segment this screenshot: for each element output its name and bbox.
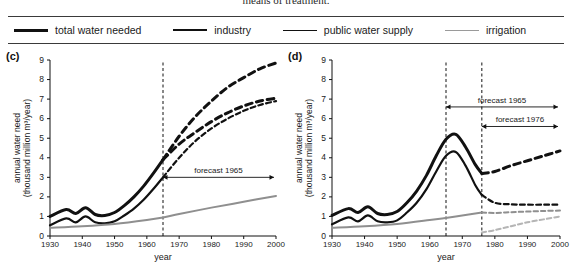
legend-label: irrigation <box>486 24 526 36</box>
plot-svg-c <box>4 48 284 270</box>
x-tick-label: 1970 <box>166 240 192 249</box>
y-axis-label-units: (thousand million m³/year) <box>22 60 32 236</box>
y-tick-label: 9 <box>316 55 326 65</box>
y-axis-label: annual water need(thousand million m³/ye… <box>12 60 32 236</box>
legend-line-swatch <box>173 29 207 31</box>
legend-line-swatch <box>445 30 479 31</box>
x-tick-label: 1950 <box>384 240 410 249</box>
x-tick-label: 1990 <box>514 240 540 249</box>
x-tick-label: 1940 <box>69 240 95 249</box>
annotation-arrow-head <box>554 105 559 110</box>
y-tick-label: 8 <box>34 74 44 84</box>
chart-legend: total water neededindustrypublic water s… <box>8 16 564 44</box>
annotation-arrow-head <box>554 124 559 129</box>
series-line-dashed <box>163 98 276 160</box>
annotation-arrow-head <box>446 105 451 110</box>
x-tick-label: 2000 <box>547 240 572 249</box>
series-line-dashed <box>482 151 560 173</box>
series-line-solid <box>332 134 482 215</box>
legend-industry: industry <box>173 24 283 36</box>
y-tick-label: 5 <box>34 133 44 143</box>
y-tick-label: 1 <box>34 211 44 221</box>
series-line-dashed <box>482 195 560 205</box>
y-axis-label-units: (thousand million m³/year) <box>304 60 314 236</box>
legend-public-water-supply: public water supply <box>283 24 445 36</box>
y-axis-label-main: annual water need <box>12 60 22 236</box>
x-axis-label: year <box>50 252 276 262</box>
chart-panel-c: (c) 012345678919301940195019601970198019… <box>4 48 284 270</box>
y-tick-label: 2 <box>34 191 44 201</box>
x-axis-label: year <box>332 252 560 262</box>
chart-panel-d: (d) 012345678919301940195019601970198019… <box>286 48 570 270</box>
legend-total-water-needed: total water needed <box>14 24 173 36</box>
y-tick-label: 0 <box>34 231 44 241</box>
y-tick-label: 0 <box>316 231 326 241</box>
plot-svg-d <box>286 48 570 270</box>
annotation-label: forecast 1976 <box>494 115 546 124</box>
y-tick-label: 1 <box>316 211 326 221</box>
y-tick-label: 5 <box>316 133 326 143</box>
y-tick-label: 6 <box>34 113 44 123</box>
legend-label: public water supply <box>324 24 413 36</box>
x-tick-label: 1940 <box>352 240 378 249</box>
legend-irrigation: irrigation <box>445 24 558 36</box>
y-tick-label: 4 <box>316 152 326 162</box>
x-tick-label: 1980 <box>198 240 224 249</box>
y-tick-label: 2 <box>316 191 326 201</box>
legend-line-swatch <box>283 30 317 31</box>
x-tick-label: 1960 <box>417 240 443 249</box>
y-tick-label: 4 <box>34 152 44 162</box>
series-line-solid <box>332 151 482 224</box>
y-tick-label: 8 <box>316 74 326 84</box>
y-axis-label-main: annual water need <box>294 60 304 236</box>
x-tick-label: 1930 <box>319 240 345 249</box>
series-line-solid <box>50 160 163 217</box>
annotation-label: forecast 1965 <box>476 96 528 105</box>
legend-label: total water needed <box>55 24 141 36</box>
legend-line-swatch <box>14 29 48 32</box>
legend-label: industry <box>214 24 251 36</box>
annotation-label: forecast 1965 <box>193 166 245 175</box>
page-caption-strip: means of treatment. <box>0 0 572 14</box>
y-tick-label: 3 <box>316 172 326 182</box>
annotation-arrow-head <box>270 175 275 180</box>
y-tick-label: 3 <box>34 172 44 182</box>
x-tick-label: 1990 <box>231 240 257 249</box>
caption-text: means of treatment. <box>0 0 572 6</box>
y-tick-label: 6 <box>316 113 326 123</box>
annotation-arrow-head <box>482 124 487 129</box>
x-tick-label: 1980 <box>482 240 508 249</box>
x-tick-label: 1970 <box>449 240 475 249</box>
y-axis-label: annual water need(thousand million m³/ye… <box>294 60 314 236</box>
x-tick-label: 1930 <box>37 240 63 249</box>
y-tick-label: 7 <box>34 94 44 104</box>
series-line-dashed <box>482 216 560 232</box>
x-tick-label: 1960 <box>134 240 160 249</box>
series-line-dashed <box>482 211 560 213</box>
y-tick-label: 9 <box>34 55 44 65</box>
x-tick-label: 1950 <box>102 240 128 249</box>
y-tick-label: 7 <box>316 94 326 104</box>
